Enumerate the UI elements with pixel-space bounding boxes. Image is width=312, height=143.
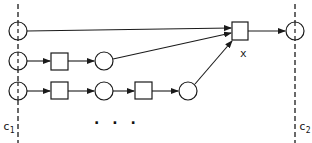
label-x: x xyxy=(240,48,247,59)
label-c1-main: c xyxy=(3,120,10,133)
arc-r2-to-x xyxy=(113,33,231,59)
transition-x xyxy=(232,22,248,40)
label-c2-main: c xyxy=(299,120,306,133)
transition-r2-1 xyxy=(51,53,68,70)
label-c2: c2 xyxy=(299,121,310,132)
transition-r3-2 xyxy=(135,82,152,99)
place-r3-2 xyxy=(95,82,113,100)
label-c1: c1 xyxy=(3,121,14,132)
place-r3-3 xyxy=(179,82,197,100)
ellipsis: · · · xyxy=(94,115,140,131)
transition-r3-1 xyxy=(51,82,68,99)
diagram-canvas xyxy=(0,0,312,143)
label-c1-sub: 1 xyxy=(10,126,15,135)
arc-r3-to-x xyxy=(195,41,232,84)
label-c2-sub: 2 xyxy=(306,126,311,135)
place-r2-2 xyxy=(95,52,113,70)
arc-r1-to-x xyxy=(27,28,231,31)
